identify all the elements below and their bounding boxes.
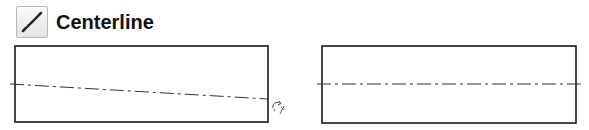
tilted-centerline[interactable] [10, 84, 268, 99]
diagram-after [317, 46, 582, 123]
centerline-diagrams [0, 0, 589, 130]
rectangle-before [15, 46, 268, 122]
rotate-cursor-icon [273, 101, 284, 114]
diagram-before [10, 46, 284, 122]
